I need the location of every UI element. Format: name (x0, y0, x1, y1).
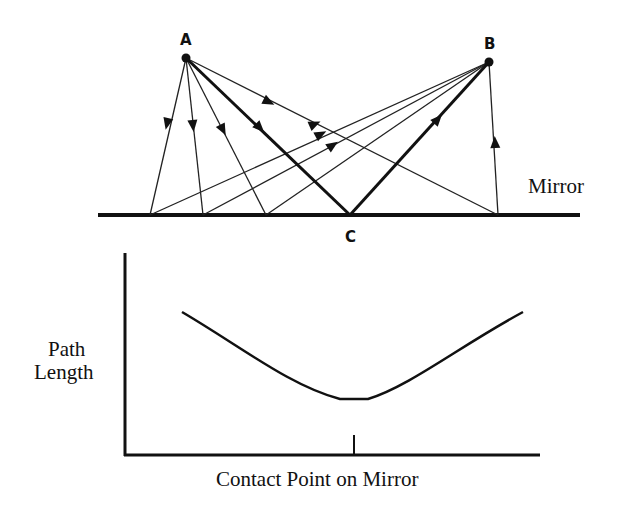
path-length-curve (182, 312, 523, 399)
point-a-dot (182, 54, 191, 63)
mirror-label: Mirror (528, 174, 584, 198)
point-b-dot (485, 58, 494, 67)
point-c-label: C (345, 228, 356, 246)
y-axis-label-line2: Length (34, 360, 94, 384)
x-axis-label: Contact Point on Mirror (216, 467, 418, 491)
mirror-reflection-figure: A B C Mirror Path Length Contact Point o… (0, 0, 625, 511)
point-a-label: A (180, 31, 192, 49)
path-length-graph: Path Length Contact Point on Mirror (34, 253, 540, 491)
y-axis-label-line1: Path (48, 337, 86, 361)
point-b-label: B (484, 35, 495, 53)
reflection-diagram: A B C Mirror (98, 31, 584, 246)
